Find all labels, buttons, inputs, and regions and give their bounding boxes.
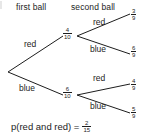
fraction-denominator: 9 xyxy=(131,14,136,21)
column-header-second-ball: second ball xyxy=(71,2,115,12)
conclusion-fraction: 2 15 xyxy=(82,120,91,133)
tree-branch-lines xyxy=(0,0,143,138)
branch-label-stage1-red: red xyxy=(24,39,36,49)
probability-stage1-red: 4 10 xyxy=(63,27,72,40)
branch-line-blue-red xyxy=(77,84,130,95)
branch-label-stage2-blue-blue: blue xyxy=(90,101,106,111)
branch-label-stage2-red-blue: blue xyxy=(90,44,106,54)
probability-stage2-blue-blue: 5 9 xyxy=(131,106,136,119)
conclusion-text: p(red and red) = xyxy=(11,121,79,132)
branch-label-stage2-red-red: red xyxy=(93,17,105,27)
branch-line-root-blue xyxy=(8,72,63,95)
probability-stage2-blue-red: 4 9 xyxy=(131,78,136,91)
fraction-denominator: 10 xyxy=(63,33,72,40)
fraction-denominator: 10 xyxy=(63,92,72,99)
fraction-denominator: 9 xyxy=(131,112,136,119)
probability-stage1-blue: 6 10 xyxy=(63,86,72,99)
probability-stage2-red-red: 3 9 xyxy=(131,8,136,21)
probability-tree-diagram: first ball second ball red blue red blue… xyxy=(0,0,143,138)
column-header-first-ball: first ball xyxy=(16,2,46,12)
probability-stage2-red-blue: 6 9 xyxy=(131,45,136,58)
fraction-denominator: 15 xyxy=(82,126,91,133)
conclusion-statement: p(red and red) = 2 15 xyxy=(11,120,91,133)
branch-label-stage1-blue: blue xyxy=(19,83,35,93)
fraction-denominator: 9 xyxy=(131,84,136,91)
fraction-denominator: 9 xyxy=(131,51,136,58)
branch-label-stage2-blue-red: red xyxy=(93,73,105,83)
